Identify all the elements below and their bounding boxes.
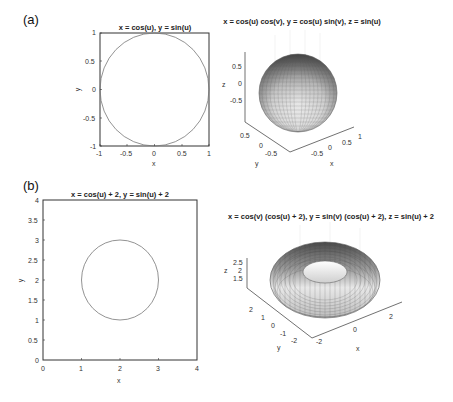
z-axis-label: z (224, 267, 228, 274)
x-tick: 2 (389, 313, 393, 320)
x-tick: 0 (353, 326, 357, 333)
z-tick: 1.5 (233, 275, 243, 282)
z-tick: 2 (238, 267, 242, 274)
x-tick: -2 (316, 338, 322, 345)
y-tick: 2 (249, 306, 253, 313)
z-tick: 2.5 (233, 259, 243, 266)
x-axis-label: x (356, 345, 360, 352)
y-tick: -1 (280, 330, 286, 337)
torus-plot (0, 0, 453, 402)
y-tick: 1 (261, 314, 265, 321)
y-tick: -2 (291, 337, 297, 344)
y-axis-label: y (277, 344, 281, 351)
y-tick: 0 (271, 322, 275, 329)
